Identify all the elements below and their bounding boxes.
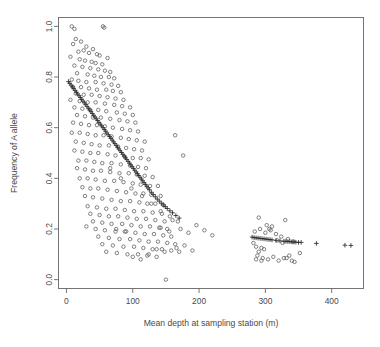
y-tick-label: 0.6 xyxy=(45,122,55,134)
x-tick-label: 100 xyxy=(126,296,140,306)
x-tick-label: 200 xyxy=(192,296,206,306)
figure-container: 0100200300400 0.00.20.40.60.81.0 Mean de… xyxy=(0,0,380,347)
plot-background xyxy=(0,0,380,347)
x-tick-label: 300 xyxy=(258,296,272,306)
y-tick-label: 0.8 xyxy=(45,71,55,83)
scatter-plot: 0100200300400 0.00.20.40.60.81.0 Mean de… xyxy=(0,0,380,347)
y-tick-label: 0.0 xyxy=(45,273,55,285)
x-tick-label: 400 xyxy=(325,296,339,306)
x-tick-label: 0 xyxy=(64,296,69,306)
y-axis-title: Frequency of A allele xyxy=(9,113,19,193)
x-axis-title: Mean depth at sampling station (m) xyxy=(144,318,279,328)
y-tick-label: 0.4 xyxy=(45,172,55,184)
y-tick-label: 1.0 xyxy=(45,20,55,32)
y-tick-label: 0.2 xyxy=(45,223,55,235)
